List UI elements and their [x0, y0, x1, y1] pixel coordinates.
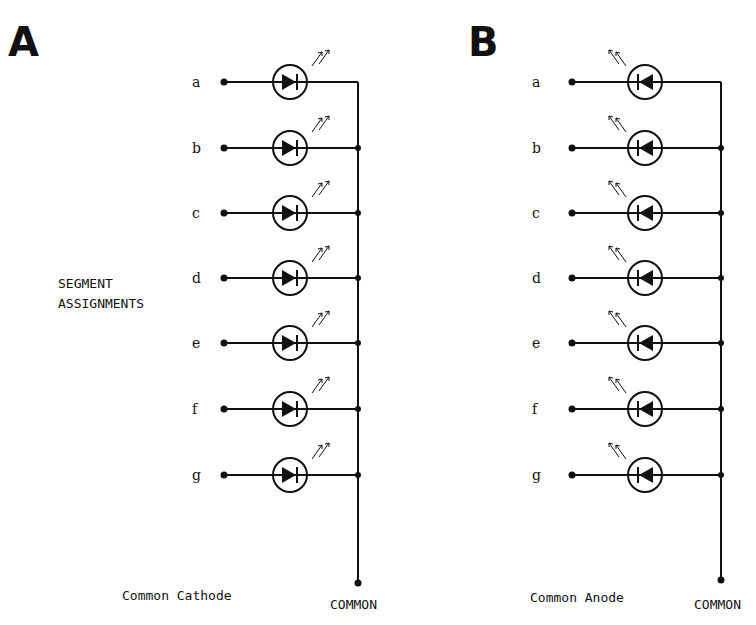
bus-junction-b — [355, 145, 361, 151]
bus-junction-f — [718, 406, 724, 412]
segment-assignments-label-line2: ASSIGNMENTS — [58, 296, 144, 311]
bus-junction-c — [718, 210, 724, 216]
common-terminal-b — [718, 577, 725, 584]
bus-junction-e — [355, 340, 361, 346]
light-arrow-icon — [616, 183, 626, 197]
segment-label-g: g — [192, 467, 201, 483]
panel-a-letter: A — [8, 22, 39, 62]
segment-label-g: g — [532, 467, 541, 483]
bus-junction-e — [718, 340, 724, 346]
panel-a-common-label: COMMON — [330, 597, 377, 612]
light-arrow-icon — [616, 52, 626, 66]
segment-label-d: d — [192, 270, 201, 286]
segment-label-f: f — [532, 401, 539, 417]
light-arrow-icon — [616, 248, 626, 262]
segment-label-b: b — [192, 140, 201, 156]
segment-label-c: c — [532, 205, 540, 221]
segment-label-f: f — [192, 401, 199, 417]
light-arrow-icon — [312, 118, 322, 132]
segment-label-b: b — [532, 140, 541, 156]
segment-assignments-label-line1: SEGMENT — [58, 276, 113, 291]
light-arrow-icon — [312, 379, 322, 393]
panel-b-common-label: COMMON — [694, 597, 741, 612]
common-terminal-a — [355, 580, 362, 587]
bus-junction-g — [718, 472, 724, 478]
light-arrow-icon — [616, 118, 626, 132]
segment-label-c: c — [192, 205, 200, 221]
segment-label-d: d — [532, 270, 541, 286]
schematic-svg: abcdefgabcdefg — [0, 0, 756, 625]
bus-junction-b — [718, 145, 724, 151]
panel-b-letter: B — [468, 22, 499, 62]
panel-b-caption: Common Anode — [530, 590, 624, 605]
segment-label-e: e — [532, 335, 540, 351]
light-arrow-icon — [312, 248, 322, 262]
bus-junction-d — [718, 275, 724, 281]
light-arrow-icon — [312, 183, 322, 197]
bus-junction-f — [355, 406, 361, 412]
light-arrow-icon — [616, 379, 626, 393]
bus-junction-g — [355, 472, 361, 478]
light-arrow-icon — [616, 313, 626, 327]
segment-label-a: a — [532, 74, 540, 90]
light-arrow-icon — [312, 52, 322, 66]
led-segment-diagram: abcdefgabcdefg A B SEGMENT ASSIGNMENTS C… — [0, 0, 756, 625]
bus-junction-c — [355, 210, 361, 216]
segment-label-a: a — [192, 74, 200, 90]
light-arrow-icon — [312, 445, 322, 459]
light-arrow-icon — [616, 445, 626, 459]
light-arrow-icon — [312, 313, 322, 327]
bus-junction-d — [355, 275, 361, 281]
segment-label-e: e — [192, 335, 200, 351]
panel-a-caption: Common Cathode — [122, 588, 232, 603]
